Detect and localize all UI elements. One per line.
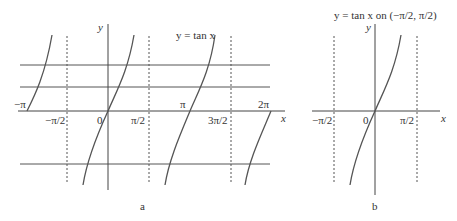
tick-label: π/2 [400, 114, 414, 126]
caption: a [140, 200, 145, 212]
tick-label: 3π/2 [208, 114, 228, 126]
tan-branch [27, 35, 52, 111]
tick-label: 2π [258, 98, 270, 110]
tan-branch [165, 35, 215, 185]
y-axis-label: y [365, 21, 371, 33]
x-axis-label: x [280, 112, 286, 124]
tick-label: 0 [97, 114, 103, 126]
curve-label: y = tan x [176, 29, 215, 41]
tick-label: −π [14, 98, 26, 110]
tick-label: −π/2 [45, 114, 65, 126]
tick-label: π [180, 98, 186, 110]
tick-label: −π/2 [312, 114, 332, 126]
panel-title: y = tan x on (−π/2, π/2) [334, 9, 437, 22]
tick-label: π/2 [131, 114, 145, 126]
y-axis-label: y [97, 21, 103, 33]
tan-diagram: y = tan x y x −π −π/2 0 π/2 π 3π/2 2π a … [0, 0, 457, 221]
x-axis-label: x [440, 112, 446, 124]
tick-label: 0 [363, 114, 369, 126]
panel-b: y = tan x on (−π/2, π/2) y x −π/2 0 π/2 … [312, 9, 446, 212]
tan-branch [245, 111, 271, 185]
panel-a: y = tan x y x −π −π/2 0 π/2 π 3π/2 2π a [14, 21, 286, 212]
caption: b [372, 200, 378, 212]
